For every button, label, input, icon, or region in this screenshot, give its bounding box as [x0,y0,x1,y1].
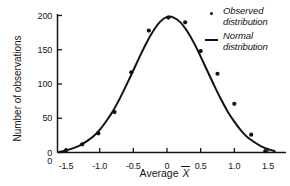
chart-legend: Observed distribution Normal distributio… [205,6,290,56]
figure-container: 050100150200 -1.5-1.0-0.500.51.01.5 0 Nu… [0,0,290,186]
data-point [232,102,236,106]
y-axis-title: Number of observations [12,23,23,155]
data-point [199,49,203,53]
x-axis-title-symbol: X [181,167,190,179]
legend-label-observed: Observed distribution [223,6,268,27]
data-point [147,28,151,32]
legend-dot-marker-icon [205,9,221,19]
x-axis-title: Average X [105,167,225,179]
data-point [215,72,219,76]
legend-entry-normal: Normal distribution [205,31,290,51]
y-axis-tick-label: 150 [18,45,52,55]
data-point [166,15,170,19]
legend-line-marker-icon [205,34,221,44]
y-axis-tick-label: 200 [18,11,52,21]
x-axis-tick-label: 1.5 [262,161,274,171]
data-point [112,110,116,114]
x-axis-tick-label: -1.5 [59,161,74,171]
legend-entry-observed: Observed distribution [205,6,290,26]
x-axis-title-prefix: Average [140,167,182,179]
legend-label-normal: Normal distribution [223,31,268,52]
y-axis-tick-label: 50 [18,113,52,123]
data-point [129,70,133,74]
data-point [249,133,253,137]
origin-label: 0 [36,156,52,166]
x-axis-tick-label: 1.0 [228,161,240,171]
data-point [263,149,267,153]
data-point [80,142,84,146]
y-axis-tick-label: 100 [18,79,52,89]
data-point [183,20,187,24]
data-point [64,148,68,152]
data-point [96,131,100,135]
